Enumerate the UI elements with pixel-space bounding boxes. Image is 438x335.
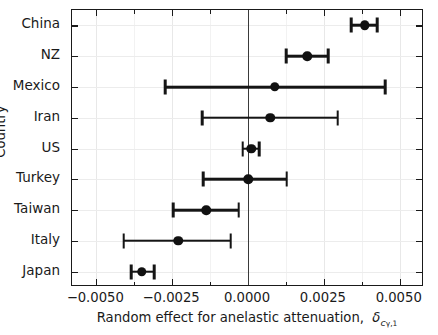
whisker-cap-high (229, 233, 232, 248)
y-axis-tick (72, 179, 78, 180)
y-axis-tick (72, 56, 78, 57)
y-axis-tick (416, 25, 422, 26)
x-axis-tick (400, 279, 401, 285)
x-axis-minor-tick (134, 10, 135, 14)
x-axis-tick (400, 10, 401, 16)
y-axis-tick (416, 179, 422, 180)
y-gridline (72, 272, 422, 273)
whisker-cap-high (258, 141, 261, 156)
x-axis-tick (324, 279, 325, 285)
data-point-marker[interactable] (137, 267, 147, 277)
y-gridline (72, 210, 422, 211)
whisker-cap-low (172, 203, 175, 218)
y-tick-label-italy: Italy (31, 233, 60, 247)
x-gridline (172, 10, 173, 285)
x-gridline-minor (134, 10, 135, 285)
x-axis-tick (172, 279, 173, 285)
whisker-cap-low (130, 264, 133, 279)
x-axis-minor-tick (210, 10, 211, 14)
x-axis-minor-tick (286, 282, 287, 286)
forest-plot-figure: Country ChinaNZMexicoIranUSTurkeyTaiwanI… (0, 0, 438, 335)
y-axis-tick (72, 241, 78, 242)
data-point-marker[interactable] (202, 205, 212, 215)
y-axis-tick (72, 272, 78, 273)
y-axis-tick (72, 87, 78, 88)
x-axis-tick (96, 10, 97, 16)
whisker-cap-low (123, 233, 126, 248)
whisker-cap-high (153, 264, 156, 279)
y-tick-label-taiwan: Taiwan (14, 202, 60, 216)
y-tick-label-mexico: Mexico (13, 79, 60, 93)
data-point-marker[interactable] (360, 21, 370, 31)
y-axis-tick (416, 118, 422, 119)
whisker-cap-low (164, 79, 167, 94)
y-tick-label-group: ChinaNZMexicoIranUSTurkeyTaiwanItalyJapa… (0, 9, 65, 286)
x-axis-minor-tick (134, 282, 135, 286)
y-tick-label-nz: NZ (41, 48, 60, 62)
y-axis-tick (72, 118, 78, 119)
x-gridline (324, 10, 325, 285)
whisker-cap-low (202, 172, 205, 187)
x-axis-minor-tick (210, 282, 211, 286)
y-axis-tick (416, 210, 422, 211)
x-axis-minor-tick (362, 10, 363, 14)
x-tick-label: −0.0050 (67, 291, 124, 304)
whisker-cap-high (286, 172, 289, 187)
data-point-marker[interactable] (243, 175, 253, 185)
x-axis-minor-tick (286, 10, 287, 14)
x-axis-title-text: Random effect for anelastic attenuation, (97, 310, 373, 325)
whisker-cap-low (350, 18, 353, 33)
y-axis-tick (416, 56, 422, 57)
x-gridline-minor (362, 10, 363, 285)
whisker-cap-high (384, 79, 387, 94)
x-axis-tick (172, 10, 173, 16)
subscript-one: ,1 (390, 319, 397, 328)
data-point-marker[interactable] (266, 113, 276, 123)
x-axis-tick (96, 279, 97, 285)
y-gridline (72, 56, 422, 57)
x-tick-label: 0.0050 (376, 291, 422, 304)
whisker-cap-high (376, 18, 379, 33)
whisker-cap-high (327, 49, 330, 64)
y-tick-label-turkey: Turkey (16, 172, 60, 186)
y-tick-label-china: China (21, 18, 60, 32)
whisker-cap-high (237, 203, 240, 218)
y-axis-tick (72, 149, 78, 150)
data-point-marker[interactable] (246, 144, 256, 154)
y-tick-label-us: US (42, 141, 60, 155)
x-tick-label: 0.0025 (300, 291, 346, 304)
data-point-marker[interactable] (303, 51, 313, 61)
x-axis-tick (324, 10, 325, 16)
x-axis-minor-tick (362, 282, 363, 286)
y-axis-tick (416, 241, 422, 242)
x-gridline-minor (210, 10, 211, 285)
whisker-cap-low (285, 49, 288, 64)
x-gridline (400, 10, 401, 285)
whisker-cap-low (242, 141, 245, 156)
plot-area (71, 9, 423, 286)
whisker-cap-low (201, 110, 204, 125)
x-tick-label: −0.0025 (143, 291, 200, 304)
y-axis-tick (72, 25, 78, 26)
whisker-cap-high (337, 110, 340, 125)
y-tick-label-iran: Iran (34, 110, 60, 124)
y-axis-tick (416, 272, 422, 273)
data-point-marker[interactable] (270, 82, 280, 92)
y-axis-tick (72, 210, 78, 211)
y-axis-tick (416, 149, 422, 150)
y-tick-label-japan: Japan (22, 264, 60, 278)
x-tick-label: 0.0000 (224, 291, 270, 304)
x-axis-title: Random effect for anelastic attenuation,… (71, 311, 423, 327)
y-axis-tick (416, 87, 422, 88)
data-point-marker[interactable] (173, 236, 183, 246)
x-gridline (96, 10, 97, 285)
